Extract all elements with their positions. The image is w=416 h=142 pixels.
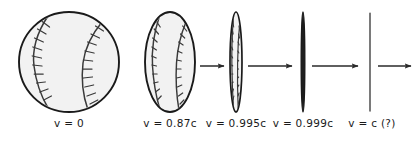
velocity-label-stage-2-text: v = 0.87c bbox=[143, 117, 197, 129]
ball-outline-stage-4 bbox=[301, 12, 305, 112]
velocity-label-stage-4-text: v = 0.999c bbox=[273, 117, 334, 129]
stage-1-baseball bbox=[19, 12, 119, 112]
velocity-label-stage-5: v = c (?) bbox=[348, 116, 395, 130]
lorentz-contraction-figure: v = 0 v = 0.87c v = 0.995c v = 0.999c v … bbox=[0, 0, 416, 142]
stage-3-baseball bbox=[230, 12, 242, 112]
velocity-label-stage-1: v = 0 bbox=[54, 116, 84, 130]
velocity-label-stage-4: v = 0.999c bbox=[273, 116, 334, 130]
velocity-label-stage-3-text: v = 0.995c bbox=[206, 117, 267, 129]
velocity-label-stage-5-text: v = c (?) bbox=[348, 117, 395, 129]
velocity-label-stage-2: v = 0.87c bbox=[143, 116, 197, 130]
velocity-label-row: v = 0 v = 0.87c v = 0.995c v = 0.999c v … bbox=[0, 116, 416, 142]
velocity-label-stage-1-text: v = 0 bbox=[54, 117, 84, 129]
velocity-label-stage-3: v = 0.995c bbox=[206, 116, 267, 130]
stage-4-baseball bbox=[301, 12, 305, 112]
stage-2-baseball bbox=[145, 12, 195, 112]
